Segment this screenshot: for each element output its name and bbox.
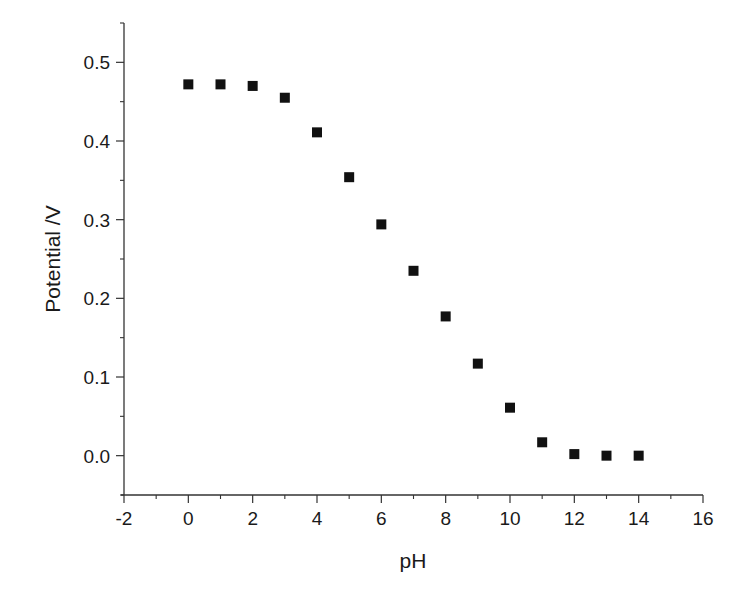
data-point-square: [505, 403, 515, 413]
data-point-square: [344, 172, 354, 182]
x-tick-label: 6: [376, 508, 387, 529]
data-point-square: [409, 266, 419, 276]
x-tick-label: 14: [628, 508, 650, 529]
data-point-square: [473, 359, 483, 369]
x-tick-label: 0: [183, 508, 194, 529]
x-tick-label: -2: [116, 508, 133, 529]
data-points: [183, 79, 643, 460]
scatter-chart: -202468101214160.00.10.20.30.40.5 pH Pot…: [0, 0, 749, 598]
y-tick-label: 0.2: [84, 288, 110, 309]
x-tick-label: 4: [312, 508, 323, 529]
y-tick-label: 0.0: [84, 446, 110, 467]
data-point-square: [248, 81, 258, 91]
data-point-square: [537, 437, 547, 447]
x-tick-label: 2: [247, 508, 258, 529]
axes: -202468101214160.00.10.20.30.40.5: [84, 23, 714, 529]
data-point-square: [441, 311, 451, 321]
x-tick-label: 10: [499, 508, 520, 529]
x-axis-label: pH: [400, 549, 427, 572]
y-tick-label: 0.4: [84, 131, 111, 152]
data-point-square: [602, 451, 612, 461]
x-tick-label: 16: [692, 508, 713, 529]
data-point-square: [183, 79, 193, 89]
data-point-square: [569, 449, 579, 459]
y-tick-label: 0.3: [84, 210, 110, 231]
data-point-square: [312, 127, 322, 137]
x-tick-label: 12: [564, 508, 585, 529]
data-point-square: [280, 93, 290, 103]
y-axis-label: Potential /V: [41, 205, 64, 312]
data-point-square: [634, 451, 644, 461]
data-point-square: [216, 79, 226, 89]
y-tick-label: 0.1: [84, 367, 110, 388]
y-tick-label: 0.5: [84, 52, 110, 73]
x-tick-label: 8: [440, 508, 451, 529]
data-point-square: [376, 219, 386, 229]
